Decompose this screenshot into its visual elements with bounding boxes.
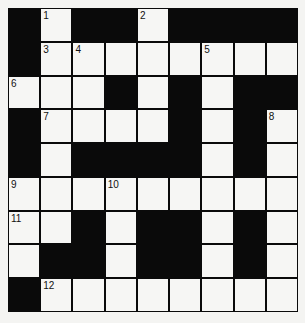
answer-cell[interactable] <box>106 110 136 142</box>
answer-cell[interactable] <box>202 144 232 176</box>
answer-cell[interactable]: 7 <box>41 110 71 142</box>
answer-cell[interactable] <box>170 43 200 75</box>
black-cell <box>235 245 265 277</box>
black-cell <box>235 212 265 244</box>
clue-number: 6 <box>11 78 17 89</box>
answer-cell[interactable] <box>41 212 71 244</box>
answer-cell[interactable]: 8 <box>267 110 297 142</box>
black-cell <box>138 245 168 277</box>
answer-cell[interactable] <box>138 77 168 109</box>
black-cell <box>235 110 265 142</box>
clue-number: 5 <box>204 44 210 55</box>
answer-cell[interactable] <box>73 110 103 142</box>
black-cell <box>138 212 168 244</box>
answer-cell[interactable] <box>267 144 297 176</box>
clue-number: 12 <box>43 280 54 291</box>
black-cell <box>73 9 103 41</box>
black-cell <box>170 77 200 109</box>
clue-number: 1 <box>43 10 49 21</box>
black-cell <box>170 144 200 176</box>
black-cell <box>9 9 39 41</box>
crossword-grid: 123456789101112 <box>8 8 298 312</box>
black-cell <box>138 144 168 176</box>
clue-number: 8 <box>269 111 275 122</box>
answer-cell[interactable] <box>73 178 103 210</box>
black-cell <box>267 9 297 41</box>
black-cell <box>170 245 200 277</box>
clue-number: 7 <box>43 111 49 122</box>
answer-cell[interactable]: 10 <box>106 178 136 210</box>
answer-cell[interactable] <box>106 279 136 311</box>
black-cell <box>73 245 103 277</box>
answer-cell[interactable]: 12 <box>41 279 71 311</box>
answer-cell[interactable] <box>41 77 71 109</box>
answer-cell[interactable] <box>138 110 168 142</box>
answer-cell[interactable] <box>106 212 136 244</box>
answer-cell[interactable] <box>267 279 297 311</box>
black-cell <box>106 144 136 176</box>
black-cell <box>9 43 39 75</box>
black-cell <box>235 144 265 176</box>
clue-number: 9 <box>11 179 17 190</box>
answer-cell[interactable]: 3 <box>41 43 71 75</box>
answer-cell[interactable] <box>106 245 136 277</box>
answer-cell[interactable] <box>235 43 265 75</box>
black-cell <box>202 9 232 41</box>
black-cell <box>106 77 136 109</box>
black-cell <box>235 77 265 109</box>
answer-cell[interactable] <box>267 212 297 244</box>
answer-cell[interactable] <box>267 245 297 277</box>
black-cell <box>170 212 200 244</box>
answer-cell[interactable] <box>41 144 71 176</box>
answer-cell[interactable] <box>9 245 39 277</box>
black-cell <box>235 9 265 41</box>
answer-cell[interactable]: 1 <box>41 9 71 41</box>
answer-cell[interactable] <box>267 178 297 210</box>
answer-cell[interactable] <box>170 279 200 311</box>
black-cell <box>106 9 136 41</box>
answer-cell[interactable] <box>235 279 265 311</box>
black-cell <box>170 110 200 142</box>
answer-cell[interactable] <box>202 212 232 244</box>
black-cell <box>41 245 71 277</box>
answer-cell[interactable] <box>41 178 71 210</box>
black-cell <box>9 144 39 176</box>
answer-cell[interactable] <box>106 43 136 75</box>
answer-cell[interactable] <box>73 279 103 311</box>
answer-cell[interactable]: 9 <box>9 178 39 210</box>
black-cell <box>73 212 103 244</box>
answer-cell[interactable] <box>138 279 168 311</box>
answer-cell[interactable]: 4 <box>73 43 103 75</box>
answer-cell[interactable] <box>235 178 265 210</box>
clue-number: 4 <box>75 44 81 55</box>
answer-cell[interactable] <box>202 110 232 142</box>
clue-number: 2 <box>140 10 146 21</box>
answer-cell[interactable] <box>267 43 297 75</box>
answer-cell[interactable] <box>202 77 232 109</box>
answer-cell[interactable]: 6 <box>9 77 39 109</box>
answer-cell[interactable] <box>138 178 168 210</box>
clue-number: 3 <box>43 44 49 55</box>
answer-cell[interactable]: 11 <box>9 212 39 244</box>
clue-number: 10 <box>108 179 119 190</box>
answer-cell[interactable]: 5 <box>202 43 232 75</box>
answer-cell[interactable] <box>202 245 232 277</box>
black-cell <box>9 279 39 311</box>
answer-cell[interactable] <box>73 77 103 109</box>
black-cell <box>267 77 297 109</box>
clue-number: 11 <box>11 213 21 224</box>
answer-cell[interactable] <box>202 279 232 311</box>
answer-cell[interactable]: 2 <box>138 9 168 41</box>
answer-cell[interactable] <box>138 43 168 75</box>
black-cell <box>170 9 200 41</box>
black-cell <box>9 110 39 142</box>
answer-cell[interactable] <box>202 178 232 210</box>
black-cell <box>73 144 103 176</box>
answer-cell[interactable] <box>170 178 200 210</box>
